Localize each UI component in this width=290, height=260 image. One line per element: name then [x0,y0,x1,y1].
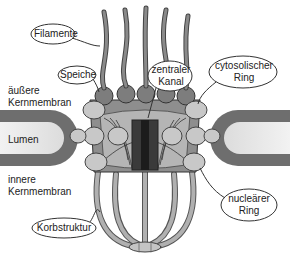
label-aeussere-kernmembran-line1: äußere [8,85,40,96]
label-nuclearer-ring-line1: nucleärer [222,193,276,204]
label-lumen: Lumen [8,134,39,145]
label-aeussere-kernmembran-line2: Kernmembran [8,97,71,108]
label-innere-kernmembran-line1: innere [8,174,36,185]
label-speiche: Speiche [60,69,96,80]
label-cytosolischer-ring-line2: Ring [212,72,276,83]
label-zentraler-kanal-line2: Kanal [150,76,192,87]
label-filamente: Filamente [34,28,74,39]
label-korbstruktur: Korbstruktur [34,222,94,233]
label-cytosolischer-ring-line1: cytosolischer [212,60,276,71]
right-membrane [210,110,290,166]
basket-structure [97,172,194,252]
nuclear-pore-diagram [0,0,290,260]
label-nuclearer-ring-line2: Ring [222,205,276,216]
label-zentraler-kanal-line1: zentraler [150,64,192,75]
label-innere-kernmembran-line2: Kernmembran [8,186,71,197]
